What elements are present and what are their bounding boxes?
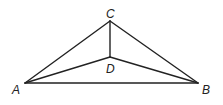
segment-ad <box>25 57 110 83</box>
diagram-canvas: A B C D <box>0 0 223 105</box>
triangle-diagram: A B C D <box>0 0 223 105</box>
segment-ac <box>25 21 110 83</box>
segment-bc <box>110 21 198 83</box>
label-d: D <box>106 62 115 76</box>
label-c: C <box>106 7 115 21</box>
segment-bd <box>110 57 198 83</box>
label-b: B <box>202 83 210 97</box>
label-a: A <box>11 83 20 97</box>
